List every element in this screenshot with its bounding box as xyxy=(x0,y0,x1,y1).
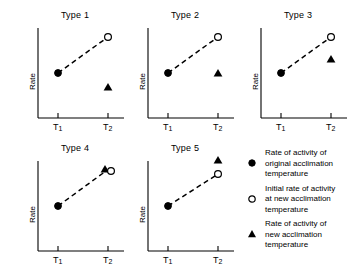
legend-text-initial-rate-new-acclimation: Initial rate of activity at new acclimat… xyxy=(265,184,363,216)
panel-type-1: Type 1 Rate T1 T2 xyxy=(20,10,130,140)
x-tick-label-t1-type-3: T1 xyxy=(276,122,285,132)
legend-text-new-acclimation: Rate of activity of new acclimation temp… xyxy=(265,219,363,251)
x-tick-label-t1-type-1: T1 xyxy=(53,122,62,132)
x-tick-label-t2-type-3: T2 xyxy=(326,122,335,132)
plot-area-type-2 xyxy=(130,10,240,140)
x-tick-label-t1-type-2: T1 xyxy=(163,122,172,132)
panel-type-2: Type 2 Rate T1 T2 xyxy=(130,10,240,140)
legend-line-3: temperature xyxy=(265,169,363,180)
x-tick-label-t2-type-4: T2 xyxy=(103,255,112,265)
legend: Rate of activity of original acclimation… xyxy=(243,148,363,255)
legend-line-3: temperature xyxy=(265,205,363,216)
legend-line-2: original acclimation xyxy=(265,159,363,170)
x-tick-label-t2-type-5: T2 xyxy=(213,255,222,265)
legend-line-2: new acclimation xyxy=(265,230,363,241)
legend-line-1: Initial rate of activity xyxy=(265,184,363,195)
plot-area-type-5 xyxy=(130,143,240,273)
legend-line-3: temperature xyxy=(265,240,363,251)
x-tick-label-t1-type-4: T1 xyxy=(53,255,62,265)
legend-text-original-acclimation: Rate of activity of original acclimation… xyxy=(265,148,363,180)
plot-area-type-1 xyxy=(20,10,130,140)
panel-type-3: Type 3 Rate T1 T2 xyxy=(243,10,353,140)
filled-triangle-icon xyxy=(245,227,259,241)
legend-entry-new-acclimation: Rate of activity of new acclimation temp… xyxy=(243,219,363,251)
panel-type-5: Type 5 Rate T1 T2 xyxy=(130,143,240,273)
plot-area-type-3 xyxy=(243,10,353,140)
acclimation-types-figure: Type 1 Rate T1 T2 Type 2 Rate T1 xyxy=(0,0,363,280)
x-tick-label-t1-type-5: T1 xyxy=(163,255,172,265)
filled-circle-icon xyxy=(245,156,259,170)
legend-line-2: at new acclimation xyxy=(265,194,363,205)
panel-type-4: Type 4 Rate T1 T2 xyxy=(20,143,130,273)
legend-entry-original-acclimation: Rate of activity of original acclimation… xyxy=(243,148,363,180)
x-tick-label-t2-type-1: T2 xyxy=(103,122,112,132)
legend-entry-initial-rate-new-acclimation: Initial rate of activity at new acclimat… xyxy=(243,184,363,216)
legend-line-1: Rate of activity of xyxy=(265,148,363,159)
legend-line-1: Rate of activity of xyxy=(265,219,363,230)
x-tick-label-t2-type-2: T2 xyxy=(213,122,222,132)
plot-area-type-4 xyxy=(20,143,130,273)
open-circle-icon xyxy=(245,192,259,206)
